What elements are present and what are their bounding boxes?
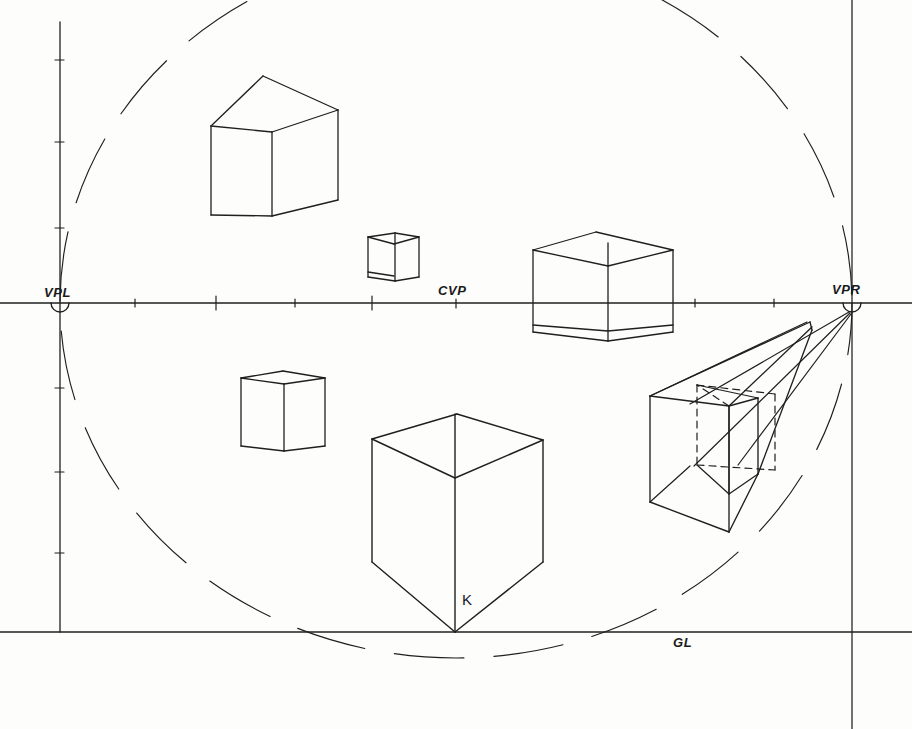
label-vpr: VPR bbox=[832, 282, 861, 297]
drawing-background bbox=[0, 0, 912, 729]
perspective-construction-drawing: VPL VPR CVP GL K bbox=[0, 0, 912, 729]
perspective-drawing-canvas: VPL VPR CVP GL K bbox=[0, 0, 912, 729]
label-gl: GL bbox=[673, 635, 692, 650]
label-vpl: VPL bbox=[44, 285, 71, 300]
label-k: K bbox=[462, 591, 472, 608]
label-cvp: CVP bbox=[438, 283, 467, 298]
